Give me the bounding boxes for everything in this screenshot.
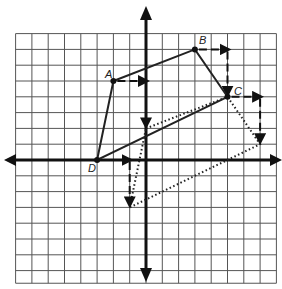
vertex-point-b <box>192 46 198 52</box>
point-label-a: A <box>105 69 112 80</box>
x-axis-left-arrow-icon <box>4 154 16 166</box>
point-label-b: B <box>199 35 206 46</box>
translation-arrows <box>101 49 260 204</box>
y-axis-down-arrow-icon <box>140 268 152 282</box>
point-label-c: C <box>234 86 242 97</box>
y-axis-up-arrow-icon <box>140 6 152 20</box>
point-label-d: D <box>88 163 96 174</box>
vertex-point-c <box>225 94 231 100</box>
coordinate-plane <box>0 0 282 289</box>
